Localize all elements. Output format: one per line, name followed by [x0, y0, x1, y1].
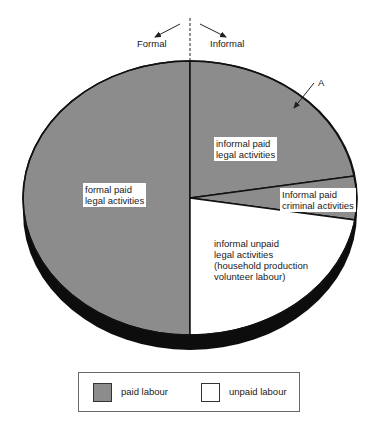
segment-label-formal-paid-legal: formal paid legal activities [83, 183, 146, 207]
formal-label: Formal [137, 38, 167, 49]
label-line: criminal activities [282, 200, 354, 211]
label-line: (household production [214, 260, 308, 271]
arrow-formal-icon [155, 24, 180, 37]
label-line: formal paid [85, 184, 144, 195]
segment-label-informal-paid-criminal: Informal paid criminal activities [280, 188, 356, 212]
label-line: informal unpaid [214, 238, 308, 249]
label-line: informal paid [216, 138, 275, 149]
legend-swatch-unpaid [201, 383, 220, 402]
label-line: legal activities [214, 249, 308, 260]
legend-label-unpaid: unpaid labour [229, 386, 287, 397]
legend-swatch-paid [93, 383, 112, 402]
label-line: legal activities [216, 149, 275, 160]
label-line: legal activities [85, 195, 144, 206]
legend: paid labour unpaid labour [78, 372, 300, 412]
pie-diagram [0, 0, 374, 435]
wedge-informal-paid-legal [190, 61, 354, 198]
label-line: volunteer labour) [214, 271, 308, 282]
segment-label-informal-unpaid-legal: informal unpaid legal activities (househ… [214, 238, 308, 282]
annotation-a-label: A [318, 77, 324, 88]
legend-label-paid: paid labour [121, 386, 168, 397]
arrow-informal-icon [200, 24, 226, 37]
label-line: Informal paid [282, 189, 354, 200]
informal-label: Informal [210, 38, 244, 49]
segment-label-informal-paid-legal: informal paid legal activities [214, 137, 277, 161]
